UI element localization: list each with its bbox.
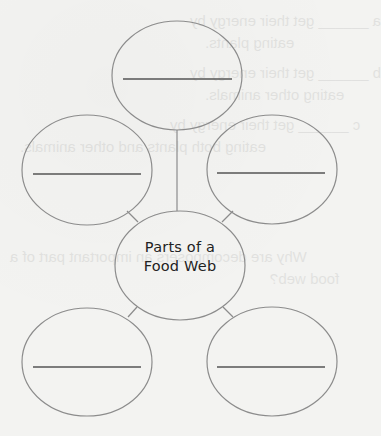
center-label-line1: Parts of a bbox=[115, 238, 245, 257]
connector-bottom-right bbox=[223, 307, 233, 317]
node-bottom-left-bubble bbox=[22, 308, 152, 416]
center-label: Parts of a Food Web bbox=[115, 238, 245, 276]
node-middle-right-bubble bbox=[207, 115, 337, 224]
center-label-line2: Food Web bbox=[115, 257, 245, 276]
node-middle-left-bubble bbox=[22, 115, 152, 225]
node-bottom-right-bubble bbox=[207, 307, 337, 416]
connector-bottom-left bbox=[128, 307, 137, 317]
node-top-bubble bbox=[112, 21, 242, 130]
